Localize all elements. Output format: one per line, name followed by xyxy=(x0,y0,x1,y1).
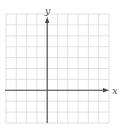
y-axis-label: y xyxy=(44,5,51,16)
axes xyxy=(5,17,109,123)
y-axis-arrow-icon xyxy=(45,17,49,23)
x-axis-arrow-icon xyxy=(103,88,109,92)
x-axis-label: x xyxy=(112,85,118,96)
coordinate-plane: x y xyxy=(0,0,126,128)
grid-lines xyxy=(6,14,109,123)
